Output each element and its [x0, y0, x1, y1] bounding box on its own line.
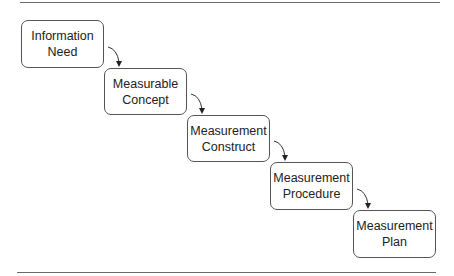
curved-arrow-icon — [274, 141, 285, 156]
curved-arrow-icon — [108, 47, 119, 62]
arrowhead-icon — [116, 61, 122, 67]
arrowhead-icon — [282, 155, 288, 161]
arrowhead-icon — [199, 108, 205, 114]
arrowhead-icon — [365, 203, 371, 209]
curved-arrow-icon — [191, 94, 202, 109]
curved-arrow-icon — [357, 189, 368, 204]
connector-arrows — [0, 0, 454, 276]
